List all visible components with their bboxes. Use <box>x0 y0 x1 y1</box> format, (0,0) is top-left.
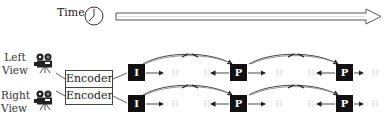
right-p-frame-2: P <box>336 95 353 112</box>
left-camera-icon <box>34 54 52 74</box>
right-camera-icon <box>34 91 52 111</box>
left-p-frame-1: P <box>230 64 247 81</box>
right-b-frame-2: B <box>198 95 216 112</box>
left-p-frame-2: P <box>336 64 353 81</box>
right-i-frame: I <box>128 95 145 112</box>
left-b-frame-1: B <box>166 64 184 81</box>
time-label: Time <box>57 6 85 19</box>
left-view-label: Left View <box>2 51 28 77</box>
right-view-label-line1: Right <box>1 89 27 102</box>
left-b-frame-2: B <box>198 64 216 81</box>
left-view-label-line2: View <box>2 64 28 77</box>
right-b-frame-4: B <box>302 95 320 112</box>
left-view-label-line1: Left <box>2 51 28 64</box>
left-b-frame-4: B <box>302 64 320 81</box>
right-b-frame-1: B <box>166 95 184 112</box>
left-i-frame: I <box>128 64 145 81</box>
right-b-frame-5: B <box>366 95 384 112</box>
time-arrow-icon <box>116 9 381 24</box>
clock-icon <box>85 7 103 25</box>
right-p-frame-1: P <box>230 95 247 112</box>
right-view-label: Right View <box>1 89 27 115</box>
diagram-graphics <box>0 0 386 133</box>
left-encoder-box: Encoder <box>65 70 113 88</box>
left-b-frame-5: B <box>366 64 384 81</box>
right-b-frame-3: B <box>270 95 288 112</box>
right-encoder-box: Encoder <box>65 87 113 105</box>
left-b-frame-3: B <box>270 64 288 81</box>
right-view-label-line2: View <box>1 102 27 115</box>
